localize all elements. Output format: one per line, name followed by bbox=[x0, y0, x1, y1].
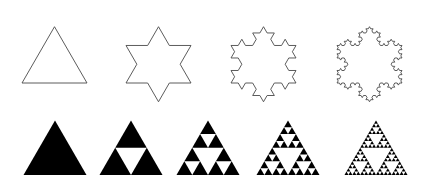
sierpinski-cell bbox=[402, 168, 406, 171]
sierpinski-cell bbox=[360, 158, 364, 161]
sierpinski-cell bbox=[360, 172, 364, 175]
sierpinski-cell bbox=[348, 165, 352, 168]
sierpinski-cell bbox=[352, 158, 356, 161]
sierpinski-cell bbox=[392, 151, 396, 154]
sierpinski-cell bbox=[372, 172, 376, 175]
sierpinski-iteration-3: Sierpinski iteration 3 bbox=[257, 120, 320, 175]
sierpinski-cell bbox=[304, 168, 312, 175]
sierpinski-cell bbox=[362, 168, 366, 171]
sierpinski-cell bbox=[400, 165, 404, 168]
sierpinski-cell bbox=[224, 161, 240, 175]
sierpinski-cell bbox=[348, 172, 352, 175]
sierpinski-cell bbox=[390, 148, 394, 151]
sierpinski-cell bbox=[284, 120, 292, 127]
sierpinski-cell bbox=[354, 155, 358, 158]
sierpinski-cell bbox=[276, 134, 284, 141]
sierpinski-cell bbox=[378, 141, 382, 144]
sierpinski-cell bbox=[296, 141, 304, 148]
sierpinski-cell bbox=[358, 148, 362, 151]
sierpinski-cell bbox=[346, 168, 350, 171]
sierpinski-cell bbox=[376, 172, 380, 175]
sierpinski-cell bbox=[268, 148, 276, 155]
fractal-canvas: Koch iteration 0 (equilateral triangle)K… bbox=[0, 0, 424, 188]
koch-iteration-3: Koch iteration 3 bbox=[337, 27, 402, 102]
sierpinski-cell bbox=[378, 168, 382, 171]
sierpinski-cell bbox=[296, 155, 304, 162]
sierpinski-cell bbox=[292, 134, 300, 141]
sierpinski-cell bbox=[388, 158, 392, 161]
sierpinski-cell bbox=[380, 172, 384, 175]
sierpinski-cell bbox=[304, 155, 312, 162]
sierpinski-cell bbox=[370, 168, 374, 171]
sierpinski-cell bbox=[356, 151, 360, 154]
koch-iteration-0: Koch iteration 0 (equilateral triangle) bbox=[22, 27, 87, 83]
sierpinski-cell bbox=[380, 131, 384, 134]
sierpinski-cell bbox=[362, 141, 366, 144]
sierpinski-cell bbox=[192, 134, 208, 148]
fractal-figure: Koch iteration 0 (equilateral triangle)K… bbox=[0, 0, 424, 188]
sierpinski-cell bbox=[376, 124, 380, 127]
sierpinski-cell bbox=[394, 155, 398, 158]
sierpinski-iteration-4: Sierpinski iteration 4 bbox=[345, 120, 408, 175]
sierpinski-cell bbox=[352, 172, 356, 175]
sierpinski-cell bbox=[382, 161, 386, 164]
sierpinski-cell bbox=[356, 158, 360, 161]
sierpinski-cell bbox=[368, 137, 372, 140]
sierpinski-cell bbox=[396, 165, 400, 168]
sierpinski-cell bbox=[372, 131, 376, 134]
sierpinski-cell bbox=[177, 161, 193, 175]
sierpinski-cell bbox=[370, 141, 374, 144]
sierpinski-cell bbox=[388, 151, 392, 154]
sierpinski-cell bbox=[368, 144, 372, 147]
sierpinski-cell bbox=[362, 155, 366, 158]
sierpinski-cell bbox=[396, 172, 400, 175]
sierpinski-cell bbox=[386, 155, 390, 158]
sierpinski-cell bbox=[392, 158, 396, 161]
sierpinski-cell bbox=[280, 141, 288, 148]
sierpinski-cell bbox=[368, 165, 372, 168]
sierpinski-cell bbox=[192, 161, 208, 175]
sierpinski-iteration-0: Sierpinski iteration 0 (solid triangle) bbox=[24, 120, 87, 175]
sierpinski-cell bbox=[364, 144, 368, 147]
sierpinski-iteration-1: Sierpinski iteration 1 bbox=[100, 120, 163, 175]
sierpinski-cell bbox=[352, 165, 356, 168]
sierpinski-cell bbox=[384, 144, 388, 147]
sierpinski-cell bbox=[364, 158, 368, 161]
sierpinski-cell bbox=[354, 168, 358, 171]
sierpinski-cell bbox=[264, 168, 272, 175]
sierpinski-cell bbox=[376, 144, 380, 147]
sierpinski-cell bbox=[380, 144, 384, 147]
koch-iteration-2: Koch iteration 2 bbox=[231, 27, 296, 102]
sierpinski-cell bbox=[368, 172, 372, 175]
sierpinski-cell bbox=[216, 148, 232, 162]
sierpinski-cell bbox=[380, 137, 384, 140]
sierpinski-cell bbox=[260, 161, 268, 168]
sierpinski-cell bbox=[364, 165, 368, 168]
sierpinski-cell bbox=[288, 141, 296, 148]
sierpinski-cell bbox=[131, 148, 163, 175]
sierpinski-cell bbox=[288, 127, 296, 134]
sierpinski-cell bbox=[312, 168, 320, 175]
sierpinski-cell bbox=[264, 155, 272, 162]
sierpinski-cell bbox=[356, 172, 360, 175]
sierpinski-cell bbox=[384, 137, 388, 140]
sierpinski-cell bbox=[257, 168, 265, 175]
sierpinski-cell bbox=[208, 161, 224, 175]
sierpinski-cell bbox=[388, 172, 392, 175]
sierpinski-cell bbox=[272, 155, 280, 162]
sierpinski-cell bbox=[398, 161, 402, 164]
sierpinski-cell bbox=[380, 165, 384, 168]
sierpinski-cell bbox=[384, 172, 388, 175]
sierpinski-cell bbox=[366, 134, 370, 137]
sierpinski-cell bbox=[384, 165, 388, 168]
sierpinski-cell bbox=[370, 127, 374, 130]
sierpinski-cell bbox=[24, 120, 87, 175]
sierpinski-cell bbox=[288, 168, 296, 175]
sierpinski-cell bbox=[388, 144, 392, 147]
koch-iteration-1: Koch iteration 1 (six-pointed star) bbox=[126, 27, 191, 102]
sierpinski-cell bbox=[400, 172, 404, 175]
sierpinski-cell bbox=[392, 172, 396, 175]
sierpinski-cell bbox=[374, 120, 378, 123]
sierpinski-cell bbox=[368, 131, 372, 134]
sierpinski-cell bbox=[382, 134, 386, 137]
